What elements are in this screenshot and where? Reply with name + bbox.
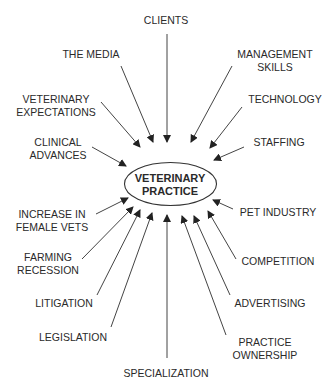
arrow-clinical-advances <box>92 147 126 166</box>
arrow-practice-ownership <box>182 216 226 335</box>
arrow-increase-in-female-vets <box>96 198 128 214</box>
factor-competition: COMPETITION <box>242 255 315 268</box>
arrow-competition <box>208 211 236 259</box>
factor-pet-industry: PET INDUSTRY <box>240 206 317 219</box>
factor-staffing: STAFFING <box>253 136 304 149</box>
factor-clinical-advances: CLINICAL ADVANCES <box>30 136 87 162</box>
arrow-legislation <box>111 213 152 327</box>
factor-management-skills: MANAGEMENT SKILLS <box>237 48 312 74</box>
arrow-technology <box>210 107 242 148</box>
arrow-advertising <box>194 216 230 295</box>
factor-the-media: THE MEDIA <box>62 48 119 61</box>
factor-farming-recession: FARMING RECESSION <box>17 251 79 277</box>
factor-increase-in-female-vets: INCREASE IN FEMALE VETS <box>16 208 88 234</box>
factor-advertising: ADVERTISING <box>235 297 306 310</box>
factor-legislation: LEGISLATION <box>39 331 107 344</box>
arrow-litigation <box>97 210 140 295</box>
arrow-veterinary-expectations <box>101 102 140 147</box>
factor-veterinary-expectations: VETERINARY EXPECTATIONS <box>16 93 96 119</box>
arrow-staffing <box>214 147 244 160</box>
factor-litigation: LITIGATION <box>35 297 93 310</box>
arrow-farming-recession <box>82 207 133 259</box>
center-label-veterinary-practice: VETERINARY PRACTICE <box>135 172 206 198</box>
center-label-line1: VETERINARY <box>135 172 206 185</box>
arrow-management-skills <box>191 66 232 142</box>
factor-technology: TECHNOLOGY <box>248 93 322 106</box>
factor-clients: CLIENTS <box>144 14 188 27</box>
center-label-line2: PRACTICE <box>135 185 206 198</box>
arrow-pet-industry <box>213 200 233 209</box>
factor-specialization: SPECIALIZATION <box>124 367 209 380</box>
factor-practice-ownership: PRACTICE OWNERSHIP <box>233 336 298 362</box>
veterinary-practice-diagram: VETERINARY PRACTICE CLIENTS THE MEDIA MA… <box>0 0 331 388</box>
